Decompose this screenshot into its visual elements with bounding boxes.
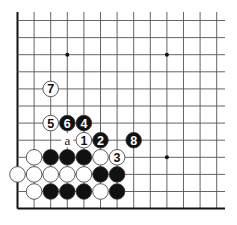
white-stone — [26, 150, 42, 166]
black-stone-body — [76, 150, 92, 166]
star-point — [165, 155, 169, 159]
go-board: a 75641283 — [0, 0, 237, 225]
black-stone — [43, 150, 59, 166]
star-point — [165, 53, 169, 57]
black-stone-body — [93, 167, 109, 183]
white-stone-body — [93, 150, 109, 166]
white-stone — [60, 167, 76, 183]
stone-move-number: 2 — [97, 134, 104, 148]
white-stone-body — [10, 167, 26, 183]
white-stone-body — [43, 167, 59, 183]
black-stone — [76, 150, 92, 166]
white-stone-body — [26, 167, 42, 183]
white-stone-1: 1 — [76, 132, 92, 148]
black-stone — [109, 184, 125, 200]
white-stone — [76, 167, 92, 183]
black-stone-body — [109, 184, 125, 200]
black-stone-body — [76, 184, 92, 200]
white-stone-body — [26, 184, 42, 200]
white-stone — [10, 167, 26, 183]
black-stone-body — [43, 184, 59, 200]
white-stone — [43, 167, 59, 183]
black-stone — [60, 150, 76, 166]
white-stone-body — [26, 150, 42, 166]
black-stone-4: 4 — [76, 115, 92, 131]
black-stone — [93, 167, 109, 183]
stone-move-number: 6 — [64, 117, 71, 131]
black-stone-body — [109, 167, 125, 183]
black-stone — [43, 184, 59, 200]
black-stone-body — [60, 184, 76, 200]
white-stone-5: 5 — [43, 115, 59, 131]
black-stone-body — [60, 150, 76, 166]
black-stone-6: 6 — [60, 115, 76, 131]
black-stone — [76, 184, 92, 200]
black-stone — [60, 184, 76, 200]
white-stone-body — [60, 167, 76, 183]
white-stone-body — [93, 184, 109, 200]
black-stone-body — [43, 150, 59, 166]
white-stone-3: 3 — [109, 150, 125, 166]
star-point — [65, 53, 69, 57]
stone-move-number: 1 — [80, 134, 87, 148]
white-stone — [26, 167, 42, 183]
stone-move-number: 7 — [47, 82, 54, 96]
white-stone — [93, 150, 109, 166]
white-stone-7: 7 — [43, 81, 59, 97]
white-stone-body — [76, 167, 92, 183]
stone-move-number: 3 — [114, 151, 121, 165]
point-label-a: a — [64, 133, 70, 148]
stone-move-number: 8 — [130, 134, 137, 148]
stone-move-number: 5 — [47, 117, 54, 131]
stone-move-number: 4 — [80, 117, 87, 131]
black-stone-2: 2 — [93, 132, 109, 148]
white-stone — [93, 184, 109, 200]
white-stone — [26, 184, 42, 200]
black-stone — [109, 167, 125, 183]
point-labels: a — [61, 133, 73, 148]
black-stone-8: 8 — [126, 132, 142, 148]
